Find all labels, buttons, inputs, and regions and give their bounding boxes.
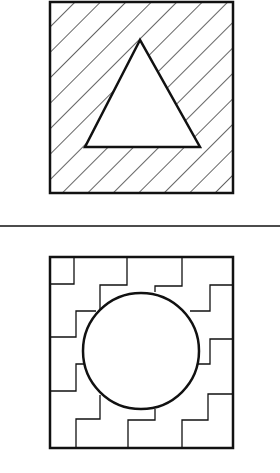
step-line	[50, 258, 74, 284]
step-line	[50, 364, 84, 391]
step-line	[128, 409, 155, 448]
step-line	[190, 285, 233, 311]
step-line	[182, 394, 233, 448]
top-panel	[50, 2, 233, 193]
step-line	[155, 258, 182, 292]
step-line	[198, 339, 233, 364]
figure-canvas	[0, 0, 280, 473]
circle-shape	[83, 293, 199, 409]
bottom-panel	[50, 257, 233, 448]
step-line	[76, 395, 100, 448]
